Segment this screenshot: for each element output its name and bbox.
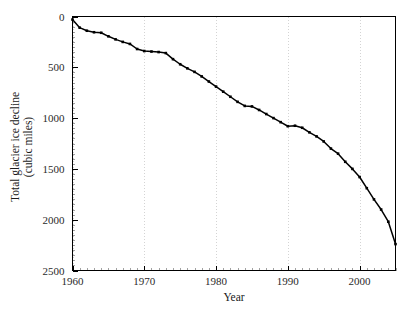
data-point	[193, 71, 196, 74]
x-axis-title: Year	[223, 291, 244, 303]
data-point	[308, 131, 311, 134]
y-tick-label: 500	[48, 61, 65, 73]
data-point	[136, 48, 139, 51]
data-point	[315, 135, 318, 138]
y-tick-label: 2500	[43, 265, 66, 277]
data-point	[394, 243, 397, 246]
data-point	[236, 101, 239, 104]
data-point	[330, 147, 333, 150]
data-point	[100, 31, 103, 34]
data-point	[157, 51, 160, 54]
data-point	[222, 90, 225, 93]
data-point	[265, 113, 268, 116]
data-point	[358, 176, 361, 179]
y-tick-label: 0	[59, 11, 65, 23]
data-series-markers	[71, 18, 397, 245]
y-axis-title-line-2: (cubic miles)	[22, 117, 35, 178]
data-point	[337, 152, 340, 155]
x-tick-label: 1960	[62, 275, 85, 287]
data-point	[129, 43, 132, 46]
data-point	[200, 75, 203, 78]
y-tick-label: 1500	[43, 163, 66, 175]
data-point	[215, 85, 218, 88]
data-point	[143, 50, 146, 53]
data-point	[279, 121, 282, 124]
plot-frame	[73, 17, 396, 271]
data-point	[150, 50, 153, 53]
data-point	[373, 198, 376, 201]
chart-canvas: 19601970198019902000 0500100015002000250…	[0, 0, 417, 311]
y-tick-label: 1000	[43, 112, 66, 124]
data-point	[301, 126, 304, 129]
data-point	[208, 80, 211, 83]
data-point	[294, 124, 297, 127]
data-point	[365, 187, 368, 190]
x-tick-label: 1970	[133, 275, 156, 287]
data-point	[186, 67, 189, 70]
data-point	[71, 18, 74, 21]
data-point	[272, 117, 275, 120]
data-series-line	[73, 20, 396, 245]
gridlines	[74, 17, 361, 271]
data-point	[351, 168, 354, 171]
x-axis-tick-labels: 19601970198019902000	[62, 275, 372, 287]
data-point	[78, 26, 81, 29]
data-point	[114, 38, 117, 41]
data-point	[107, 35, 110, 38]
y-axis-tick-labels: 05001000150020002500	[43, 11, 66, 277]
x-tick-label: 2000	[349, 275, 372, 287]
glacier-ice-decline-chart: 19601970198019902000 0500100015002000250…	[0, 0, 417, 311]
minor-ticks	[73, 18, 397, 272]
data-point	[243, 105, 246, 108]
data-point	[287, 125, 290, 128]
data-point	[322, 140, 325, 143]
data-point	[258, 109, 261, 112]
data-point	[387, 220, 390, 223]
y-tick-label: 2000	[43, 214, 66, 226]
data-point	[229, 95, 232, 98]
data-point	[380, 208, 383, 211]
data-point	[179, 63, 182, 66]
y-axis-title-line-1: Total glacier ice decline	[9, 92, 22, 202]
data-point	[344, 160, 347, 163]
data-point	[251, 105, 254, 108]
data-point	[93, 31, 96, 34]
data-point	[121, 41, 124, 44]
data-point	[165, 52, 168, 55]
data-point	[172, 58, 175, 61]
data-point	[86, 29, 89, 32]
x-tick-label: 1980	[205, 275, 228, 287]
x-tick-label: 1990	[277, 275, 300, 287]
